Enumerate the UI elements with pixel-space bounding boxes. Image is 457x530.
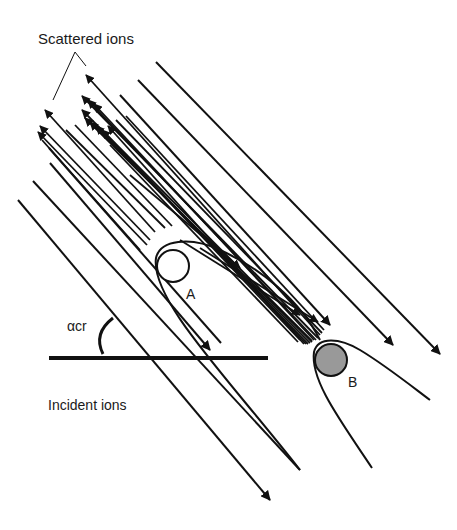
scattered-ions-label: Scattered ions <box>38 30 134 47</box>
incident-ions-label: Incident ions <box>48 397 127 413</box>
incident-ion-trajectories <box>18 62 440 500</box>
atom-b-label: B <box>348 374 357 390</box>
critical-angle-label: αcr <box>67 318 87 334</box>
scattered-ions-pointer <box>53 52 86 100</box>
atom-a-label: A <box>186 286 195 302</box>
atom-a <box>157 250 189 282</box>
critical-angle-arc <box>100 318 113 354</box>
atom-b <box>315 344 347 376</box>
ion-scattering-diagram: Scattered ions Incident ions αcr A B <box>0 0 457 530</box>
diagram-graphics <box>0 0 457 530</box>
